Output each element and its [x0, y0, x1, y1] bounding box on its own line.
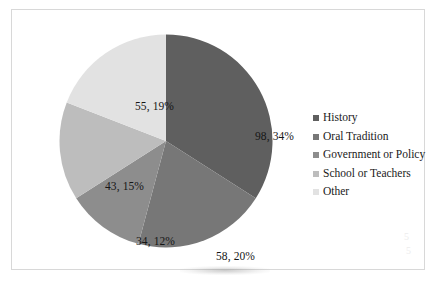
- slice-label-school-or-teachers: 43, 15%: [105, 180, 144, 192]
- legend-item-government-or-policy[interactable]: Government or Policy: [313, 146, 437, 164]
- legend-item-label: Oral Tradition: [323, 131, 389, 143]
- scanned-page: 98, 34% 58, 20% 34, 12% 43, 15% 55, 19% …: [0, 0, 439, 297]
- scan-smudge-b: 5: [406, 245, 411, 256]
- legend-item-label: School or Teachers: [323, 168, 411, 180]
- legend-item-oral-tradition[interactable]: Oral Tradition: [313, 128, 437, 146]
- legend-item-school-or-teachers[interactable]: School or Teachers: [313, 165, 437, 183]
- legend-item-other[interactable]: Other: [313, 183, 437, 201]
- chart-legend: HistoryOral TraditionGovernment or Polic…: [313, 109, 437, 202]
- legend-item-label: Other: [323, 186, 349, 198]
- legend-item-label: Government or Policy: [323, 149, 425, 161]
- pie-chart: 98, 34% 58, 20% 34, 12% 43, 15% 55, 19%: [59, 34, 273, 248]
- scan-smudge-a: 5: [404, 231, 409, 242]
- pie-chart-svg: [59, 34, 273, 248]
- slice-label-government-or-policy: 34, 12%: [136, 235, 175, 247]
- chart-frame: 98, 34% 58, 20% 34, 12% 43, 15% 55, 19% …: [11, 9, 425, 270]
- slice-label-history: 98, 34%: [255, 130, 294, 142]
- square-swatch-icon: [313, 134, 319, 140]
- scan-shadow-artifact: [180, 266, 270, 275]
- square-swatch-icon: [313, 115, 319, 121]
- legend-item-history[interactable]: History: [313, 109, 437, 127]
- square-swatch-icon: [313, 171, 319, 177]
- slice-label-oral-tradition: 58, 20%: [216, 250, 255, 262]
- legend-item-label: History: [323, 112, 358, 124]
- slice-label-other: 55, 19%: [135, 100, 174, 112]
- square-swatch-icon: [313, 189, 319, 195]
- square-swatch-icon: [313, 152, 319, 158]
